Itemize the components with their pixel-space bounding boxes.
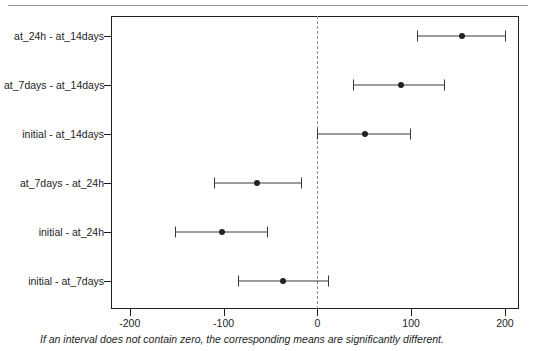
x-axis-tick-4 — [505, 309, 506, 316]
y-axis-label-4: initial - at_24h — [4, 226, 104, 237]
interval-center-point-5 — [280, 278, 286, 284]
x-axis-label-4: 200 — [496, 317, 514, 329]
x-axis-label-0: -200 — [119, 317, 140, 329]
interval-cap-5-lower — [238, 275, 239, 286]
interval-center-point-2 — [362, 131, 368, 137]
interval-cap-3-lower — [214, 177, 215, 188]
x-axis-tick-3 — [411, 309, 412, 316]
x-axis-label-2: 0 — [314, 317, 320, 329]
interval-cap-0-lower — [417, 31, 418, 42]
y-axis-label-3: at_7days - at_24h — [4, 177, 104, 188]
x-axis-label-1: -100 — [213, 317, 234, 329]
x-axis-tick-2 — [317, 309, 318, 316]
interval-cap-5-upper — [328, 275, 329, 286]
y-axis-tick-0 — [104, 36, 111, 37]
interval-center-point-0 — [459, 33, 465, 39]
interval-center-point-3 — [254, 180, 260, 186]
interval-cap-2-upper — [410, 129, 411, 140]
x-axis-tick-0 — [130, 309, 131, 316]
top-divider-rule — [8, 5, 528, 6]
interval-cap-2-lower — [317, 129, 318, 140]
interval-center-point-4 — [219, 229, 225, 235]
y-axis-tick-4 — [104, 232, 111, 233]
y-axis-tick-3 — [104, 183, 111, 184]
y-axis-tick-1 — [104, 85, 111, 86]
interval-cap-4-lower — [175, 226, 176, 237]
interval-cap-3-upper — [301, 177, 302, 188]
x-axis-tick-1 — [224, 309, 225, 316]
plot-frame — [111, 16, 519, 309]
zero-reference-line — [317, 16, 318, 309]
interval-cap-0-upper — [505, 31, 506, 42]
interval-center-point-1 — [398, 82, 404, 88]
y-axis-label-2: initial - at_14days — [4, 129, 104, 140]
figure-caption: If an interval does not contain zero, th… — [40, 333, 444, 345]
interval-cap-1-lower — [353, 80, 354, 91]
interval-cap-1-upper — [444, 80, 445, 91]
x-axis-label-3: 100 — [402, 317, 420, 329]
tukey-confidence-interval-plot: at_24h - at_14daysat_7days - at_14daysin… — [0, 0, 536, 351]
y-axis-label-0: at_24h - at_14days — [4, 31, 104, 42]
y-axis-label-5: initial - at_7days — [4, 275, 104, 286]
y-axis-tick-5 — [104, 281, 111, 282]
y-axis-tick-2 — [104, 134, 111, 135]
y-axis-label-1: at_7days - at_14days — [4, 80, 104, 91]
interval-cap-4-upper — [267, 226, 268, 237]
